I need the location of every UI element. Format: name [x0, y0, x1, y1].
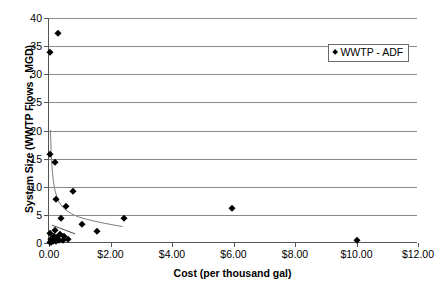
x-axis-tick-label: $12.00 [402, 249, 434, 260]
trendline-power-decay-curve [50, 130, 122, 227]
y-axis-tick [44, 131, 49, 132]
chart-legend: WWTP - ADF [328, 44, 409, 62]
gridline [49, 159, 417, 160]
x-axis-title: Cost (per thousand gal) [48, 267, 417, 279]
y-axis-tick [44, 74, 49, 75]
scatter-chart: System Size (WWTP Flows - MGD) 051015202… [0, 0, 448, 289]
gridline [49, 215, 417, 216]
x-axis-tick [418, 243, 419, 247]
x-axis-tick-label: $2.00 [97, 249, 123, 260]
gridline [49, 131, 417, 132]
x-axis-tick-label: $4.00 [159, 249, 185, 260]
y-axis-tick-label: 20 [30, 125, 42, 136]
y-axis-tick [44, 215, 49, 216]
y-axis-tick [44, 187, 49, 188]
y-axis-tick-label: 5 [36, 210, 42, 221]
y-axis-tick-label: 30 [30, 69, 42, 80]
x-axis-tick-label: 0.00 [39, 249, 59, 260]
x-axis-tick [111, 243, 112, 247]
y-axis-tick-label: 25 [30, 97, 42, 108]
x-axis-tick-label: $6.00 [220, 249, 246, 260]
data-point [59, 237, 65, 243]
gridline [49, 102, 417, 103]
y-axis-tick-label: 35 [30, 41, 42, 52]
gridline [49, 187, 417, 188]
legend-entry-label: WWTP - ADF [340, 46, 403, 59]
y-axis-tick-label: 10 [30, 182, 42, 193]
y-axis-tick-label: 0 [36, 238, 42, 249]
y-axis-tick-label: 15 [30, 153, 42, 164]
x-axis-tick-label: $8.00 [282, 249, 308, 260]
x-axis-tick-label: $10.00 [340, 249, 372, 260]
y-axis-tick [44, 18, 49, 19]
x-axis-tick [295, 243, 296, 247]
y-axis-tick [44, 102, 49, 103]
x-axis-tick [172, 243, 173, 247]
gridline [49, 18, 417, 19]
data-point [46, 239, 52, 245]
y-axis-tick-label: 40 [30, 13, 42, 24]
gridline [49, 74, 417, 75]
x-axis-tick [234, 243, 235, 247]
y-axis-tick [44, 46, 49, 47]
y-axis-tick [44, 159, 49, 160]
diamond-marker-icon [332, 49, 338, 55]
